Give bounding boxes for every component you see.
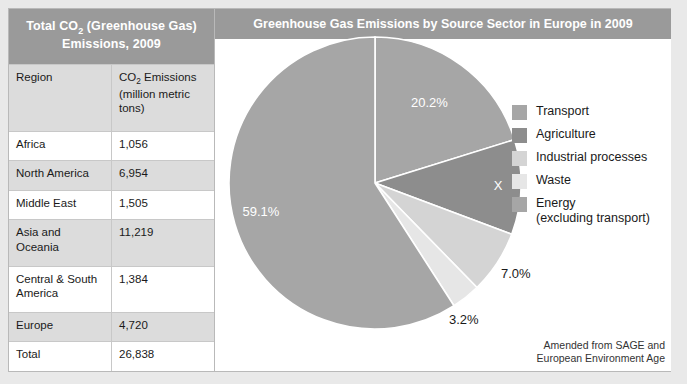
column-header-region: Region xyxy=(9,64,112,131)
figure-root: Total CO2 (Greenhouse Gas) Emissions, 20… xyxy=(0,0,687,384)
legend-swatch-icon xyxy=(512,174,527,189)
legend-swatch-icon xyxy=(512,151,527,166)
legend-label: Energy (excluding transport) xyxy=(536,196,650,226)
cell-region: Total xyxy=(9,342,112,371)
legend-swatch-icon xyxy=(512,197,527,212)
table-title-row: Total CO2 (Greenhouse Gas) Emissions, 20… xyxy=(9,9,214,64)
cell-emissions: 1,384 xyxy=(112,266,215,312)
co2-emissions-table: Total CO2 (Greenhouse Gas) Emissions, 20… xyxy=(9,9,215,371)
table-row: Africa 1,056 xyxy=(9,131,214,161)
table-row: Central & South America 1,384 xyxy=(9,266,214,312)
legend-label: Waste xyxy=(536,173,571,188)
emissions-header-main: CO xyxy=(119,71,136,83)
cell-emissions: 4,720 xyxy=(112,312,215,342)
cell-emissions: 26,838 xyxy=(112,342,215,371)
chart-panel: Greenhouse Gas Emissions by Source Secto… xyxy=(215,9,671,371)
cell-region: Central & South America xyxy=(9,266,112,312)
emissions-header-unit: (million metric tons) xyxy=(119,88,190,114)
pie-chart xyxy=(213,31,523,351)
table-row: North America 6,954 xyxy=(9,161,214,191)
figure-panel: Total CO2 (Greenhouse Gas) Emissions, 20… xyxy=(8,8,671,372)
legend-swatch-icon xyxy=(512,128,527,143)
legend-swatch-icon xyxy=(512,105,527,120)
legend-item-energy[interactable]: Energy (excluding transport) xyxy=(512,196,672,226)
cell-emissions: 1,505 xyxy=(112,190,215,220)
table-title: Total CO2 (Greenhouse Gas) Emissions, 20… xyxy=(9,9,214,64)
table-title-text-main: Total CO xyxy=(26,19,78,33)
chart-credit: Amended from SAGE and European Environme… xyxy=(537,339,665,366)
table-row: Middle East 1,505 xyxy=(9,190,214,220)
legend-label: Transport xyxy=(536,104,589,119)
table-header-row: Region CO2 Emissions (million metric ton… xyxy=(9,64,214,131)
cell-region: Middle East xyxy=(9,190,112,220)
chart-body: 20.2% X 7.0% 3.2% 59.1% Transport Agricu… xyxy=(215,39,671,371)
cell-emissions: 1,056 xyxy=(112,131,215,161)
cell-region: Asia and Oceania xyxy=(9,220,112,266)
cell-emissions: 11,219 xyxy=(112,220,215,266)
table-row: Europe 4,720 xyxy=(9,312,214,342)
legend-item-transport[interactable]: Transport xyxy=(512,104,672,120)
cell-region: Europe xyxy=(9,312,112,342)
legend-item-agriculture[interactable]: Agriculture xyxy=(512,127,672,143)
emissions-header-rest: Emissions xyxy=(141,71,197,83)
table-title-line2: Emissions, 2009 xyxy=(62,37,161,51)
cell-emissions: 6,954 xyxy=(112,161,215,191)
cell-region: Africa xyxy=(9,131,112,161)
table-row-total: Total 26,838 xyxy=(9,342,214,371)
table-title-text-rest: (Greenhouse Gas) xyxy=(83,19,197,33)
legend-item-waste[interactable]: Waste xyxy=(512,173,672,189)
legend-item-industrial-processes[interactable]: Industrial processes xyxy=(512,150,672,166)
chart-legend: Transport Agriculture Industrial process… xyxy=(512,104,672,233)
table-row: Asia and Oceania 11,219 xyxy=(9,220,214,266)
cell-region: North America xyxy=(9,161,112,191)
column-header-emissions: CO2 Emissions (million metric tons) xyxy=(112,64,215,131)
legend-label: Industrial processes xyxy=(536,150,647,165)
legend-label: Agriculture xyxy=(536,127,596,142)
